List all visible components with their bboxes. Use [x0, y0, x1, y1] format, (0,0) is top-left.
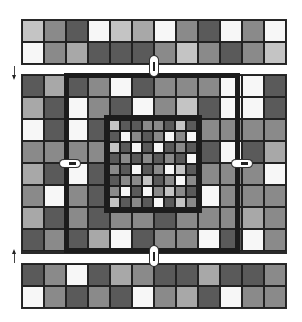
inner-grid-cell [164, 175, 175, 186]
inner-grid-cell [164, 197, 175, 208]
bottom-band-cell [22, 264, 44, 286]
middle-block-cell [264, 119, 286, 141]
inner-grid-cell [175, 142, 186, 153]
middle-block-cell [22, 207, 44, 229]
inner-grid-cell [153, 142, 164, 153]
top-band-cell [22, 20, 44, 42]
inner-grid-cell [120, 175, 131, 186]
bottom-band-cell [220, 286, 242, 308]
bottom-band-cell [66, 286, 88, 308]
inner-grid-cell [142, 175, 153, 186]
inner-grid-cell [120, 142, 131, 153]
middle-block-cell [22, 185, 44, 207]
middle-block-cell [242, 75, 264, 97]
inner-grid-cell [175, 153, 186, 164]
middle-block-cell [66, 229, 88, 251]
bottom-band-cell [110, 286, 132, 308]
inner-grid-cell [142, 120, 153, 131]
inner-grid-cell [120, 131, 131, 142]
inner-grid-cell [109, 153, 120, 164]
middle-block-cell [66, 75, 88, 97]
bottom-band-cell [198, 264, 220, 286]
bottom-band-cell [264, 264, 286, 286]
inner-grid-cell [153, 186, 164, 197]
middle-block-cell [242, 119, 264, 141]
middle-block-cell [264, 97, 286, 119]
inner-grid-cell [120, 164, 131, 175]
middle-block-cell [242, 207, 264, 229]
bottom-band-cell [66, 264, 88, 286]
middle-block-cell [220, 207, 242, 229]
top-band-cell [176, 20, 198, 42]
inner-grid-cell [109, 175, 120, 186]
middle-block-cell [264, 163, 286, 185]
top-band-cell [176, 42, 198, 64]
inner-grid-cell [109, 164, 120, 175]
inner-grid-cell [153, 175, 164, 186]
inner-grid-cell [164, 142, 175, 153]
inner-grid-cell [131, 164, 142, 175]
inner-grid-cell [142, 197, 153, 208]
middle-block-cell [264, 207, 286, 229]
bottom-band-cell [264, 286, 286, 308]
middle-block-cell [176, 75, 198, 97]
middle-block-cell [22, 229, 44, 251]
left-link-connector-icon[interactable] [60, 160, 80, 167]
middle-block-cell [220, 97, 242, 119]
inner-grid-cell [186, 131, 197, 142]
inner-grid-cell [175, 131, 186, 142]
middle-block-cell [88, 229, 110, 251]
inner-grid-cell [142, 186, 153, 197]
inner-grid-cell [186, 120, 197, 131]
middle-block-cell [220, 185, 242, 207]
right-link-connector-icon[interactable] [232, 160, 252, 167]
inner-grid-cell [120, 153, 131, 164]
middle-block-cell [220, 229, 242, 251]
top-band-cell [44, 42, 66, 64]
inner-grid-cell [153, 131, 164, 142]
middle-block-cell [198, 229, 220, 251]
bottom-band-cell [110, 264, 132, 286]
middle-block-cell [22, 97, 44, 119]
top-link-connector-icon[interactable] [150, 56, 158, 76]
middle-block-cell [264, 141, 286, 163]
middle-block-cell [110, 75, 132, 97]
top-band-cell [22, 42, 44, 64]
middle-block-cell [44, 207, 66, 229]
inner-grid-cell [186, 142, 197, 153]
bottom-link-connector-icon[interactable] [150, 246, 158, 266]
bottom-band-cell [132, 286, 154, 308]
middle-block-cell [44, 229, 66, 251]
inner-grid-cell [153, 164, 164, 175]
top-band-cell [66, 42, 88, 64]
bottom-band-cell [88, 286, 110, 308]
inner-grid-cell [142, 142, 153, 153]
middle-block-cell [22, 141, 44, 163]
bottom-band-cell [132, 264, 154, 286]
down-arrow-icon [14, 66, 15, 78]
inner-grid-cell [186, 197, 197, 208]
inner-grid-cell [164, 164, 175, 175]
inner-checker-grid [104, 115, 202, 213]
middle-block-cell [198, 75, 220, 97]
bottom-band-grid [21, 263, 287, 309]
middle-block-cell [66, 185, 88, 207]
inner-grid-cell [175, 197, 186, 208]
inner-grid-cell [153, 197, 164, 208]
inner-grid-cell [109, 197, 120, 208]
inner-grid-cell [120, 186, 131, 197]
inner-grid-cell [120, 120, 131, 131]
middle-block-cell [66, 119, 88, 141]
top-band-cell [110, 42, 132, 64]
inner-grid-cell [109, 120, 120, 131]
inner-grid-cell [131, 120, 142, 131]
middle-block-cell [242, 185, 264, 207]
top-band-cell [242, 20, 264, 42]
inner-grid-cell [131, 131, 142, 142]
inner-grid-cell [131, 175, 142, 186]
inner-grid-cell [186, 175, 197, 186]
inner-grid-cell [175, 120, 186, 131]
bottom-band-cell [88, 264, 110, 286]
top-band-cell [88, 20, 110, 42]
bottom-band-cell [22, 286, 44, 308]
